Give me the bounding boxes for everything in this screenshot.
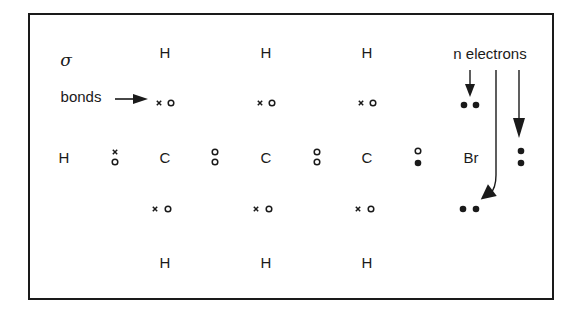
bond-top-2 bbox=[258, 100, 275, 106]
electron-overlay bbox=[0, 0, 581, 316]
n-electron-arrow-right-icon bbox=[513, 70, 525, 138]
bond-top-3 bbox=[359, 100, 376, 106]
bond-bottom-2 bbox=[254, 206, 272, 212]
br-lone-pair-right bbox=[518, 148, 525, 167]
bond-h-c1 bbox=[112, 150, 118, 165]
br-lone-pair-bottom bbox=[460, 206, 480, 213]
n-electron-arrow-bottom-icon bbox=[481, 70, 500, 205]
bond-top-1 bbox=[157, 100, 174, 106]
bond-bottom-3 bbox=[356, 206, 374, 212]
bond-c2-c3 bbox=[314, 149, 320, 165]
bond-c3-br bbox=[415, 148, 422, 166]
bond-bottom-1 bbox=[153, 206, 171, 212]
n-electron-arrow-top-icon bbox=[465, 70, 475, 97]
br-lone-pair-top bbox=[461, 102, 480, 109]
bond-c1-c2 bbox=[212, 149, 218, 165]
bonds-arrow-icon bbox=[115, 94, 148, 104]
